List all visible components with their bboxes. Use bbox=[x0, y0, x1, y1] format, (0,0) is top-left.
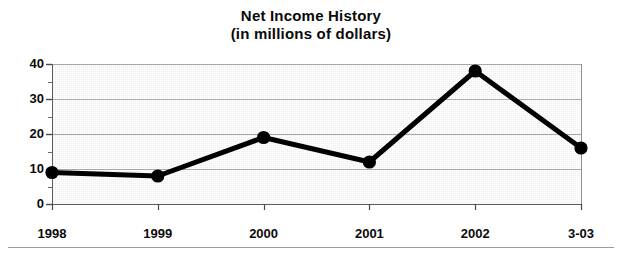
data-point bbox=[257, 131, 270, 144]
x-tick-label: 3-03 bbox=[546, 226, 616, 241]
data-point bbox=[574, 141, 587, 154]
data-point bbox=[151, 169, 164, 182]
y-tick-label: 20 bbox=[4, 127, 44, 141]
x-tick-label: 2002 bbox=[440, 226, 510, 241]
y-tick-label: 40 bbox=[4, 57, 44, 71]
x-tick-label: 1998 bbox=[17, 226, 87, 241]
bottom-divider bbox=[8, 247, 614, 248]
x-tick-label: 2000 bbox=[229, 226, 299, 241]
data-series-net-income bbox=[0, 0, 622, 256]
y-tick-label: 0 bbox=[4, 197, 44, 211]
y-tick-label: 10 bbox=[4, 162, 44, 176]
y-tick-label: 30 bbox=[4, 92, 44, 106]
data-point bbox=[45, 166, 58, 179]
net-income-history-chart: Net Income History (in millions of dolla… bbox=[0, 0, 622, 256]
data-point bbox=[363, 155, 376, 168]
x-tick-label: 2001 bbox=[334, 226, 404, 241]
series-markers bbox=[45, 64, 587, 182]
data-point bbox=[469, 64, 482, 77]
x-tick-label: 1999 bbox=[123, 226, 193, 241]
series-line bbox=[52, 71, 581, 176]
